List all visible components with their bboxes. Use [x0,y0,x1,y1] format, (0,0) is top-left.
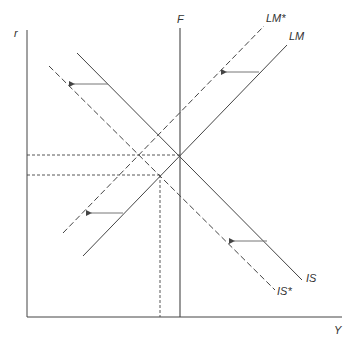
lm-label: LM [289,31,304,42]
lm-curve [83,45,287,256]
is-label: IS [306,273,316,284]
is-lm-diagram [0,0,362,348]
y-axis-label: r [14,28,18,39]
is-curve [77,53,302,280]
f-label: F [177,14,184,25]
lm-star-curve [63,26,264,233]
lm-star-label: LM* [266,13,286,24]
x-axis-label: Y [334,325,341,336]
is-star-label: IS* [277,286,292,297]
is-star-curve [49,66,275,290]
